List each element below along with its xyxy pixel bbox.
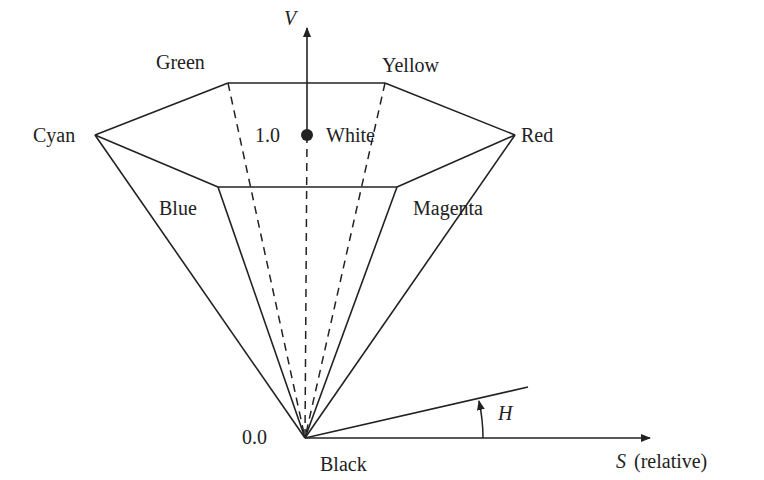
v-axis-label: V: [284, 7, 299, 29]
vertex-label-cyan: Cyan: [33, 124, 75, 147]
vertex-label-yellow: Yellow: [382, 54, 439, 76]
white-point: [301, 129, 313, 141]
hue-angle-arc: [479, 401, 483, 438]
vertex-label-blue: Blue: [159, 197, 197, 219]
vertex-label-black: Black: [320, 453, 367, 475]
vertex-label-magenta: Magenta: [413, 197, 483, 220]
hue-angle-label: H: [497, 402, 514, 424]
hue-ray: [305, 387, 528, 438]
value-top-label: 1.0: [255, 124, 280, 146]
vertex-label-green: Green: [156, 51, 205, 73]
value-bottom-label: 0.0: [242, 426, 267, 448]
hsv-hexcone-diagram: V Green Yellow Cyan Red 1.0 White Blue M…: [0, 0, 764, 480]
vertex-label-white: White: [326, 124, 375, 146]
vertex-label-red: Red: [521, 124, 553, 146]
s-axis-label-letter: S: [616, 450, 626, 472]
s-axis-label-suffix: (relative): [634, 450, 707, 473]
